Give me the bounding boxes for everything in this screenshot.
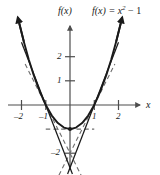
vertex-point xyxy=(68,127,72,131)
x-tick-label-minus1: –1 xyxy=(39,112,48,121)
x-axis-caption: x xyxy=(146,100,150,110)
equation-suffix: − 1 xyxy=(126,5,142,16)
y-tick-label-minus2: –2 xyxy=(51,148,60,157)
y-tick-label-1: 1 xyxy=(57,76,62,85)
curve-equation-label: f(x) = x2 − 1 xyxy=(92,6,141,16)
equation-prefix: f(x) = x xyxy=(92,5,122,16)
x-tick-label-1: 1 xyxy=(92,112,97,121)
x-tick-label-2: 2 xyxy=(116,112,121,121)
y-axis-caption: f(x) xyxy=(58,6,72,16)
plot-canvas xyxy=(0,0,160,175)
y-tick-label-2: 2 xyxy=(57,52,62,61)
parabola-right-arrow xyxy=(116,18,122,42)
x-tick-label-minus2: –2 xyxy=(14,112,23,121)
parabola-left-arrow xyxy=(18,18,24,42)
axes-group xyxy=(8,26,140,170)
parabola-figure: f(x) f(x) = x2 − 1 x –2 –1 1 2 2 1 –2 xyxy=(0,0,160,175)
